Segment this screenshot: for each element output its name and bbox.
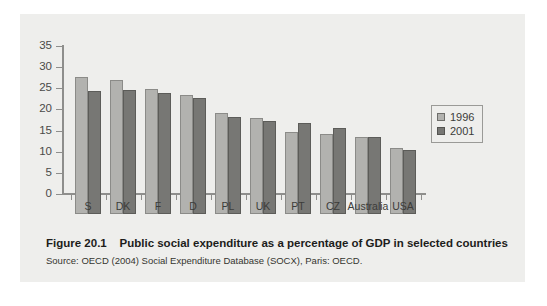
y-axis-tick-label: 0 — [24, 188, 52, 200]
bar-group — [110, 66, 136, 214]
bar-group — [75, 66, 101, 214]
y-axis-tick — [56, 67, 62, 68]
x-axis-label-usa: USA — [373, 201, 433, 212]
x-axis-tick — [281, 195, 282, 200]
x-axis-tick — [106, 195, 107, 200]
figure-caption-label: Figure 20.1 — [46, 237, 107, 249]
figure-caption-block: Figure 20.1 Public social expenditure as… — [46, 236, 516, 267]
bar-group — [250, 66, 276, 214]
bar-group — [180, 66, 206, 214]
bar-f-1996 — [145, 89, 158, 214]
y-axis-tick — [56, 152, 62, 153]
y-axis-tick-label: 30 — [24, 61, 52, 73]
bar-group — [390, 66, 416, 214]
bar-f-2001 — [158, 93, 171, 214]
bar-s-1996 — [75, 77, 88, 214]
figure-panel: 05101520253035 SDKFDPLUKPTCZAustraliaUSA… — [20, 14, 525, 282]
legend-label-1996: 1996 — [450, 112, 474, 123]
bar-group — [285, 66, 311, 214]
x-axis-tick — [316, 195, 317, 200]
x-axis-tick — [71, 195, 72, 200]
bar-d-1996 — [180, 95, 193, 214]
y-axis-tick-label: 10 — [24, 146, 52, 158]
x-axis-tick — [141, 195, 142, 200]
x-axis-tick — [246, 195, 247, 200]
y-axis-tick-label: 25 — [24, 82, 52, 94]
x-axis-tick — [176, 195, 177, 200]
y-axis-tick — [56, 46, 62, 47]
bar-chart: 05101520253035 SDKFDPLUKPTCZAustraliaUSA… — [20, 14, 525, 214]
chart-legend: 1996 2001 — [431, 105, 483, 143]
legend-label-2001: 2001 — [450, 126, 474, 137]
y-axis-tick — [56, 173, 62, 174]
bar-pl-1996 — [215, 113, 228, 214]
legend-entry-1996: 1996 — [437, 110, 474, 124]
bar-group — [145, 66, 171, 214]
y-axis-tick-label: 5 — [24, 167, 52, 179]
bar-d-2001 — [193, 98, 206, 214]
y-axis-line — [62, 45, 64, 194]
legend-swatch-icon-2001 — [437, 127, 445, 135]
legend-swatch-icon-1996 — [437, 113, 445, 121]
y-axis-tick-label: 15 — [24, 125, 52, 137]
bar-s-2001 — [88, 91, 101, 214]
x-axis-tick — [421, 195, 422, 200]
figure-caption: Figure 20.1 Public social expenditure as… — [46, 236, 516, 252]
figure-source: Source: OECD (2004) Social Expenditure D… — [46, 255, 516, 267]
y-axis-tick — [56, 109, 62, 110]
bar-group — [215, 66, 241, 214]
y-axis-tick — [56, 88, 62, 89]
y-axis-tick — [56, 194, 62, 195]
y-axis-tick-label: 20 — [24, 103, 52, 115]
figure-caption-text: Public social expenditure as a percentag… — [120, 237, 508, 249]
y-axis-tick-label: 35 — [24, 40, 52, 52]
bar-dk-1996 — [110, 80, 123, 214]
bar-group — [320, 66, 346, 214]
bar-group — [355, 66, 381, 214]
x-axis-tick — [211, 195, 212, 200]
bar-dk-2001 — [123, 90, 136, 214]
legend-entry-2001: 2001 — [437, 124, 474, 138]
y-axis-tick — [56, 131, 62, 132]
